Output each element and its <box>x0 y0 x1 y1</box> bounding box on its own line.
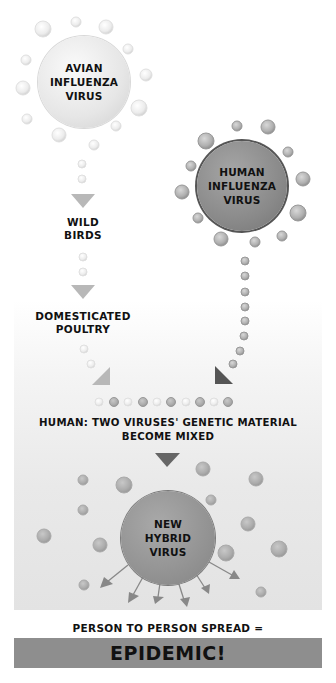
arrow-to-wild-birds <box>71 194 95 208</box>
arrow-to-poultry <box>71 285 95 299</box>
new-hybrid-virus: NEW HYBRID VIRUS <box>121 491 215 585</box>
spread-label: PERSON TO PERSON SPREAD = <box>14 622 322 635</box>
hybrid-label-line-1: NEW <box>145 517 191 531</box>
hybrid-label-line-2: HYBRID <box>145 531 191 545</box>
hybrid-label-line-3: VIRUS <box>145 545 191 559</box>
arrow-to-hybrid <box>155 453 180 467</box>
wild-birds-label: WILD BIRDS <box>44 216 122 242</box>
human-label-line-3: VIRUS <box>208 193 276 207</box>
human-label-line-2: INFLUENZA <box>208 179 276 193</box>
epidemic-text: EPIDEMIC! <box>110 642 226 664</box>
human-influenza-virus: HUMAN INFLUENZA VIRUS <box>197 141 287 231</box>
human-label-line-1: HUMAN <box>208 165 276 179</box>
epidemic-banner: EPIDEMIC! <box>14 638 322 668</box>
avian-label-line-3: VIRUS <box>50 89 118 103</box>
domesticated-poultry-label: DOMESTICATED POULTRY <box>18 310 148 336</box>
avian-influenza-virus: AVIAN INFLUENZA VIRUS <box>38 36 130 128</box>
avian-label-line-1: AVIAN <box>50 61 118 75</box>
mixing-dots <box>95 398 233 407</box>
arrow-from-poultry <box>92 367 110 385</box>
human-virus-path-dots <box>229 257 249 368</box>
mixing-label: HUMAN: TWO VIRUSES' GENETIC MATERIAL BEC… <box>14 416 322 444</box>
avian-label-line-2: INFLUENZA <box>50 75 118 89</box>
arrow-from-human-virus <box>215 366 233 384</box>
